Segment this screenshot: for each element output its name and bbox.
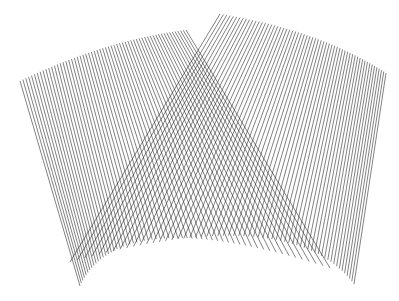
string-line — [23, 80, 82, 284]
left-fan-lines — [20, 30, 330, 286]
string-line — [85, 15, 227, 258]
string-line — [201, 28, 284, 237]
string-line — [354, 73, 386, 284]
string-line — [322, 57, 358, 256]
string-line — [136, 39, 217, 241]
string-art-figure — [0, 0, 399, 301]
string-line — [172, 24, 269, 240]
string-line — [105, 47, 164, 238]
string-line — [318, 55, 355, 254]
string-line — [29, 77, 85, 278]
string-line — [57, 64, 106, 255]
string-line — [66, 61, 114, 251]
string-line — [218, 31, 293, 236]
string-line — [169, 32, 289, 255]
string-line — [153, 22, 259, 243]
string-line — [352, 72, 384, 282]
string-line — [70, 14, 220, 262]
string-line — [63, 62, 111, 252]
string-line — [331, 61, 365, 262]
string-line — [166, 23, 266, 241]
string-line — [175, 32, 302, 260]
string-line — [328, 59, 363, 260]
string-line — [244, 35, 308, 236]
string-line — [150, 36, 246, 246]
string-line — [43, 70, 94, 265]
string-line — [52, 67, 101, 260]
string-line — [280, 44, 329, 241]
string-line — [32, 76, 87, 275]
line-pattern — [0, 0, 399, 301]
string-line — [249, 36, 311, 236]
string-line — [122, 43, 192, 239]
string-line — [212, 30, 289, 236]
string-line — [285, 45, 332, 242]
string-line — [183, 30, 323, 265]
string-line — [184, 25, 275, 238]
string-line — [20, 81, 80, 286]
string-line — [325, 58, 361, 258]
right-fan-lines — [70, 14, 386, 284]
